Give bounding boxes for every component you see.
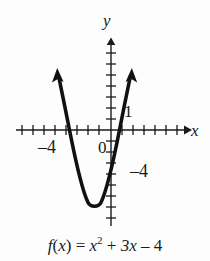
caption-term2: 3x	[121, 236, 137, 255]
y-axis-arrow-icon	[107, 38, 116, 46]
caption-minus: –	[141, 236, 150, 255]
caption-close-paren: )	[66, 236, 72, 255]
function-caption: f(x) = x2 + 3x – 4	[0, 234, 210, 256]
caption-equals: =	[76, 236, 86, 255]
y-axis-label: y	[103, 12, 111, 29]
curve-right-arrow-icon	[126, 68, 138, 83]
y-tick-label-neg4: –4	[130, 162, 148, 180]
x-tick-label-neg4: –4	[38, 138, 56, 156]
parabola-graph	[0, 0, 210, 261]
y-axis	[107, 38, 116, 227]
origin-label: 0	[98, 139, 107, 156]
parabola-curve	[52, 68, 137, 206]
caption-var: x	[58, 236, 66, 255]
caption-term1-exponent: 2	[97, 234, 103, 246]
caption-term1-base: x	[90, 236, 98, 255]
x-tick-label-1: 1	[124, 103, 133, 120]
caption-plus: +	[107, 236, 117, 255]
figure-page: y x 0 –4 1 –4 f(x) = x2 + 3x – 4	[0, 0, 210, 261]
caption-term3: 4	[154, 236, 163, 255]
x-axis-label: x	[191, 122, 199, 139]
